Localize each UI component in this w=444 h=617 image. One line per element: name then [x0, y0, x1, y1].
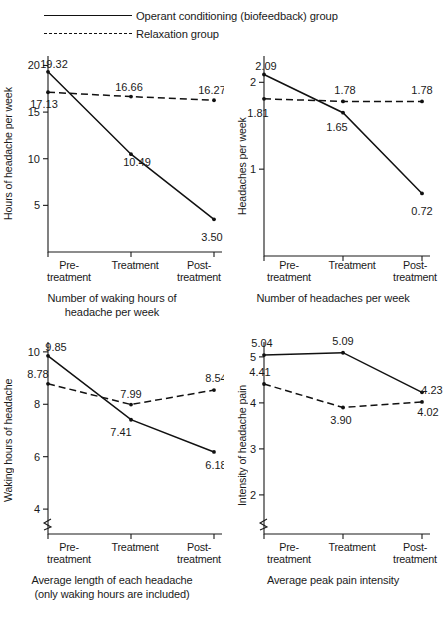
- svg-text:7.99: 7.99: [120, 388, 141, 400]
- svg-text:2.09: 2.09: [255, 60, 276, 72]
- svg-text:4: 4: [34, 503, 40, 515]
- legend-entry-operant: Operant conditioning (biofeedback) group: [44, 8, 338, 24]
- chart-panel-hours-per-week: Hours of headache per week 510152019.321…: [0, 48, 224, 318]
- panel-caption: Average peak pain intensity: [222, 574, 444, 588]
- legend-label-relaxation: Relaxation group: [136, 28, 219, 40]
- x-category-post: Post- treatment: [370, 260, 444, 283]
- svg-text:3.50: 3.50: [201, 231, 222, 243]
- svg-text:1.65: 1.65: [326, 121, 347, 133]
- svg-text:16.66: 16.66: [115, 81, 143, 93]
- svg-text:3: 3: [250, 443, 256, 455]
- svg-text:1.78: 1.78: [334, 84, 355, 96]
- svg-text:4: 4: [250, 397, 256, 409]
- legend-label-operant: Operant conditioning (biofeedback) group: [136, 10, 338, 22]
- svg-text:7.41: 7.41: [110, 426, 131, 438]
- panel-caption: Number of waking hours of headache per w…: [0, 292, 224, 319]
- legend-swatch-dashed-line: [44, 29, 132, 39]
- svg-text:17.13: 17.13: [30, 98, 58, 110]
- svg-text:1.78: 1.78: [411, 84, 432, 96]
- svg-text:20: 20: [28, 59, 40, 71]
- chart-legend: Operant conditioning (biofeedback) group…: [0, 4, 444, 44]
- svg-text:19.32: 19.32: [40, 58, 68, 70]
- svg-text:5.04: 5.04: [251, 337, 272, 349]
- plot-area-hours-per-week: 510152019.3210.493.5017.1316.6616.27: [0, 48, 224, 278]
- svg-text:5: 5: [250, 351, 256, 363]
- legend-entry-relaxation: Relaxation group: [44, 26, 219, 42]
- svg-text:10: 10: [28, 153, 40, 165]
- svg-text:2: 2: [250, 489, 256, 501]
- svg-text:4.02: 4.02: [417, 406, 438, 418]
- plot-area-peak-pain: 23455.045.094.234.413.904.02: [222, 322, 444, 560]
- svg-text:8: 8: [34, 398, 40, 410]
- panel-caption: Average length of each headache (only wa…: [0, 574, 224, 601]
- x-category-post: Post- treatment: [370, 542, 444, 565]
- svg-text:8.78: 8.78: [27, 368, 48, 380]
- svg-text:3.90: 3.90: [330, 414, 351, 426]
- chart-panel-headaches-per-week: Headaches per week 122.091.650.721.811.7…: [222, 48, 444, 318]
- svg-text:10: 10: [28, 346, 40, 358]
- svg-text:4.41: 4.41: [249, 366, 270, 378]
- svg-text:5: 5: [34, 199, 40, 211]
- svg-text:2: 2: [250, 76, 256, 88]
- svg-text:1: 1: [250, 163, 256, 175]
- legend-swatch-solid-line: [44, 11, 132, 21]
- svg-text:1.81: 1.81: [247, 107, 268, 119]
- svg-text:10.49: 10.49: [123, 156, 151, 168]
- svg-text:6: 6: [34, 451, 40, 463]
- plot-area-waking-hours: 468109.857.416.188.787.998.54: [0, 322, 224, 560]
- plot-area-headaches-per-week: 122.091.650.721.811.781.78: [222, 48, 444, 278]
- svg-text:9.85: 9.85: [45, 341, 66, 353]
- panel-caption: Number of headaches per week: [222, 292, 444, 306]
- chart-panel-peak-pain-intensity: Intensity of headache pain 23455.045.094…: [222, 322, 444, 617]
- svg-text:0.72: 0.72: [411, 205, 432, 217]
- svg-text:5.09: 5.09: [332, 335, 353, 347]
- svg-text:4.23: 4.23: [421, 384, 442, 396]
- chart-panel-waking-hours-each-headache: Waking hours of headache 468109.857.416.…: [0, 322, 224, 617]
- svg-text:16.27: 16.27: [198, 84, 224, 96]
